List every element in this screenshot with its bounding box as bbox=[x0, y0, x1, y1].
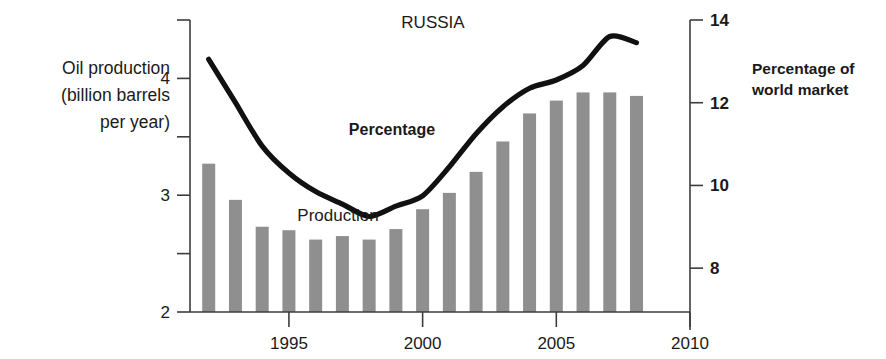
bar-1999 bbox=[389, 229, 402, 312]
bar-2000 bbox=[416, 209, 429, 312]
bar-2007 bbox=[603, 92, 616, 312]
left-tick-label-2: 2 bbox=[161, 303, 170, 322]
right-tick-label-10: 10 bbox=[710, 176, 729, 195]
right-tick-label-14: 14 bbox=[710, 11, 729, 30]
bar-1998 bbox=[363, 240, 376, 312]
left-axis-title-line1: Oil production bbox=[62, 58, 170, 78]
right-axis-title-line1: Percentage of bbox=[752, 60, 855, 77]
x-tick-label-2000: 2000 bbox=[404, 334, 442, 353]
bar-1992 bbox=[202, 164, 215, 312]
left-axis-title-line2: (billion barrels bbox=[61, 85, 170, 105]
x-tick-label-2005: 2005 bbox=[537, 334, 575, 353]
bar-2005 bbox=[550, 101, 563, 312]
left-tick-label-3: 3 bbox=[161, 186, 170, 205]
bar-1995 bbox=[282, 230, 295, 312]
bar-1993 bbox=[229, 200, 242, 312]
x-tick-label-2010: 2010 bbox=[671, 334, 709, 353]
right-axis-tick-labels: 8101214 bbox=[710, 11, 729, 278]
left-axis-ticks bbox=[177, 20, 190, 312]
left-axis-title-line3: per year) bbox=[100, 112, 170, 132]
x-axis-tick-labels: 1995200020052010 bbox=[270, 334, 709, 353]
chart-figure: 234 8101214 1995200020052010 RUSSIA Oil … bbox=[0, 0, 886, 359]
right-axis-title-line2: world market bbox=[751, 81, 848, 98]
right-axis-ticks bbox=[690, 20, 703, 268]
chart-title: RUSSIA bbox=[401, 13, 465, 32]
percentage-series-annotation: Percentage bbox=[349, 121, 435, 138]
x-axis-ticks bbox=[289, 312, 690, 327]
bar-2002 bbox=[470, 172, 483, 312]
right-tick-label-12: 12 bbox=[710, 94, 729, 113]
bar-1996 bbox=[309, 240, 322, 312]
bar-2008 bbox=[630, 96, 643, 312]
bar-2004 bbox=[523, 113, 536, 312]
right-tick-label-8: 8 bbox=[710, 259, 719, 278]
production-series-annotation: Production bbox=[297, 206, 378, 225]
bar-2003 bbox=[496, 141, 509, 312]
bar-1997 bbox=[336, 236, 349, 312]
bar-1994 bbox=[256, 227, 269, 312]
bar-2006 bbox=[577, 92, 590, 312]
x-tick-label-1995: 1995 bbox=[270, 334, 308, 353]
chart-canvas: 234 8101214 1995200020052010 RUSSIA Oil … bbox=[0, 0, 886, 359]
bar-2001 bbox=[443, 193, 456, 312]
left-axis-tick-labels: 234 bbox=[161, 69, 170, 322]
